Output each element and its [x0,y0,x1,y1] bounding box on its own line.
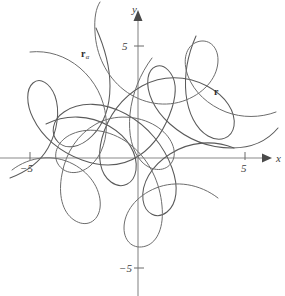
curve-label-r-alpha-subscript: α [86,53,90,60]
curve-r-alpha-group [12,2,276,247]
curve-figure: x y −5 5 5 −5 r rα [0,0,285,296]
x-axis-label: x [275,152,281,164]
curve-r-alpha-path-3 [95,2,276,117]
y-tick-label-5: 5 [122,40,128,52]
x-tick-label-neg5: −5 [20,162,33,174]
curve-r-path-3 [46,36,234,186]
curve-label-r-alpha: rα [81,48,90,60]
figure-svg: x y −5 5 5 −5 r rα [0,0,285,296]
x-tick-label-5: 5 [241,162,247,174]
y-axis-label: y [131,3,137,15]
curve-r-group [10,28,278,216]
x-axis-arrowhead [262,154,272,163]
y-tick-label-neg5: −5 [119,262,132,274]
curve-label-r: r [214,86,219,97]
axis-labels-group: x y −5 5 5 −5 [20,3,281,274]
